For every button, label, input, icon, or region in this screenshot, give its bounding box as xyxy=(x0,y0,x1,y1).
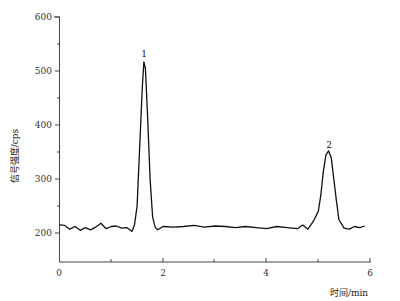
x-tick-labels: 0 2 4 6 xyxy=(56,268,373,278)
y-ticks xyxy=(55,17,60,233)
x-ticks xyxy=(60,258,371,262)
peak-label-1: 1 xyxy=(141,49,147,59)
y-tick-400: 400 xyxy=(35,120,52,130)
y-tick-500: 500 xyxy=(35,66,52,76)
chromatogram-trace xyxy=(60,62,365,232)
x-tick-2: 2 xyxy=(160,268,166,278)
y-tick-600: 600 xyxy=(35,12,52,22)
axes xyxy=(54,17,371,262)
chromatogram-chart: 600 500 400 300 200 0 2 4 6 时间/min 信号强度/… xyxy=(0,0,400,301)
y-axis-title: 信号强度/cps xyxy=(9,128,20,183)
x-tick-4: 4 xyxy=(263,268,269,278)
peak-label-2: 2 xyxy=(326,140,332,150)
y-tick-200: 200 xyxy=(35,228,52,238)
x-tick-0: 0 xyxy=(56,268,62,278)
x-tick-6: 6 xyxy=(367,268,373,278)
y-tick-labels: 600 500 400 300 200 xyxy=(35,12,52,238)
y-tick-300: 300 xyxy=(35,174,52,184)
x-axis-title: 时间/min xyxy=(330,287,368,298)
